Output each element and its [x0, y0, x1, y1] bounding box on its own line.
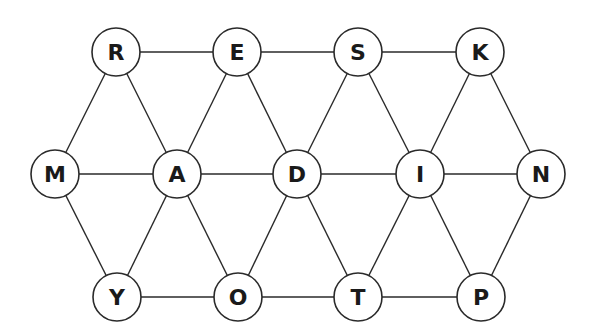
node-label: T: [350, 285, 365, 310]
node-N: N: [517, 150, 565, 198]
node-label: K: [471, 40, 489, 65]
node-label: S: [350, 40, 366, 65]
node-label: I: [416, 162, 424, 187]
node-Y: Y: [93, 273, 141, 321]
node-A: A: [153, 150, 201, 198]
node-D: D: [273, 150, 321, 198]
letter-graph-diagram: RESKMADINYOTP: [0, 0, 594, 334]
node-label: R: [108, 40, 125, 65]
node-label: M: [44, 162, 66, 187]
node-label: E: [229, 40, 244, 65]
node-T: T: [334, 273, 382, 321]
node-label: O: [229, 285, 248, 310]
graph-svg: RESKMADINYOTP: [0, 0, 594, 334]
node-R: R: [92, 28, 140, 76]
node-K: K: [456, 28, 504, 76]
node-label: A: [168, 162, 185, 187]
node-M: M: [31, 150, 79, 198]
node-I: I: [396, 150, 444, 198]
node-E: E: [213, 28, 261, 76]
node-label: N: [532, 162, 550, 187]
node-label: Y: [108, 285, 126, 310]
node-S: S: [334, 28, 382, 76]
node-label: P: [473, 285, 489, 310]
node-label: D: [288, 162, 306, 187]
node-P: P: [457, 273, 505, 321]
node-O: O: [214, 273, 262, 321]
